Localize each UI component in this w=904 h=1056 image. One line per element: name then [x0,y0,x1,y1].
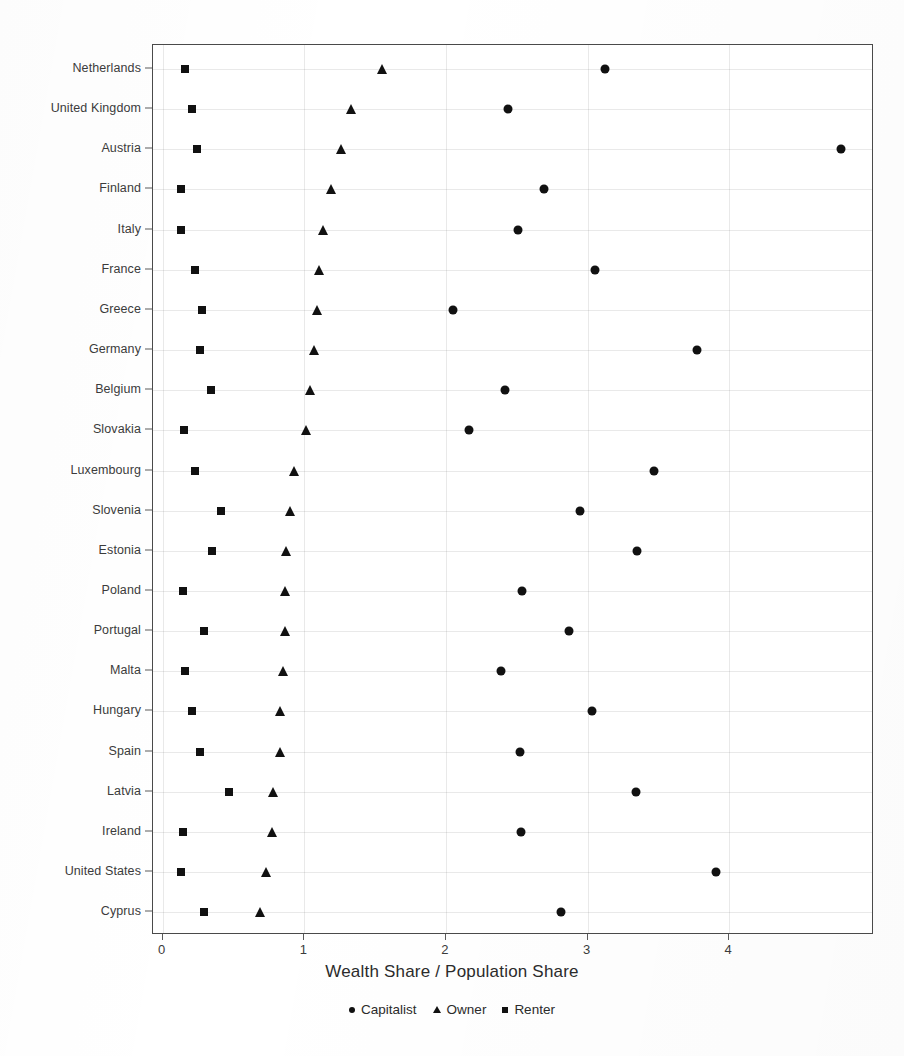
marker-capitalist [650,466,659,475]
marker-capitalist [518,586,527,595]
marker-owner [281,546,291,556]
y-tick-label: United States [65,864,141,878]
y-tick-label: Austria [101,141,141,155]
capitalist-marker-icon [349,1007,355,1013]
y-tick-label: Cyprus [101,904,141,918]
y-tick-label: Ireland [102,824,141,838]
marker-capitalist [514,225,523,234]
marker-capitalist [464,426,473,435]
marker-renter [188,707,196,715]
marker-capitalist [501,386,510,395]
marker-renter [225,788,233,796]
gridline-horizontal [153,350,872,351]
gridline-horizontal [153,551,872,552]
marker-capitalist [712,868,721,877]
gridline-horizontal [153,390,872,391]
marker-owner [289,466,299,476]
gridline-horizontal [153,230,872,231]
marker-capitalist [515,747,524,756]
y-tick-label: Slovakia [93,422,141,436]
marker-capitalist [556,908,565,917]
gridline-vertical [446,45,447,933]
y-tick-label: Portugal [94,623,141,637]
plot-area [152,44,873,934]
gridline-horizontal [153,752,872,753]
y-tick-mark [145,750,152,751]
marker-owner [280,626,290,636]
marker-owner [280,586,290,596]
gridline-horizontal [153,832,872,833]
marker-capitalist [587,707,596,716]
y-tick-mark [145,549,152,550]
y-tick-mark [145,790,152,791]
marker-capitalist [633,546,642,555]
marker-owner [318,225,328,235]
legend-label: Capitalist [361,1002,417,1017]
marker-owner [305,385,315,395]
x-tick-mark [728,934,729,940]
marker-renter [177,868,185,876]
marker-capitalist [600,65,609,74]
marker-renter [196,346,204,354]
x-tick-mark [303,934,304,940]
y-tick-mark [145,589,152,590]
y-tick-mark [145,509,152,510]
marker-renter [188,105,196,113]
y-tick-mark [145,68,152,69]
y-tick-mark [145,670,152,671]
owner-marker-icon [433,1006,441,1013]
legend-label: Renter [514,1002,555,1017]
y-tick-mark [145,871,152,872]
gridline-vertical [304,45,305,933]
marker-renter [181,667,189,675]
marker-capitalist [516,827,525,836]
x-tick-mark [162,934,163,940]
gridline-horizontal [153,631,872,632]
marker-renter [193,145,201,153]
y-tick-mark [145,349,152,350]
y-tick-mark [145,710,152,711]
marker-owner [285,506,295,516]
y-tick-label: Latvia [107,784,141,798]
x-tick-label: 4 [724,942,731,957]
marker-renter [208,547,216,555]
y-tick-label: Slovenia [92,503,141,517]
marker-capitalist [576,506,585,515]
marker-owner [377,64,387,74]
y-tick-mark [145,108,152,109]
x-tick-mark [587,934,588,940]
gridline-horizontal [153,471,872,472]
marker-renter [179,828,187,836]
marker-renter [177,226,185,234]
marker-owner [312,305,322,315]
y-tick-label: Luxembourg [71,463,142,477]
marker-owner [346,104,356,114]
figure-scatter-wealth-share: NetherlandsUnited KingdomAustriaFinlandI… [0,0,904,1056]
y-tick-mark [145,308,152,309]
x-tick-mark [445,934,446,940]
marker-owner [314,265,324,275]
gridline-horizontal [153,671,872,672]
y-tick-label: United Kingdom [51,101,141,115]
y-tick-label: Spain [109,744,141,758]
y-tick-label: Hungary [93,703,141,717]
y-tick-mark [145,148,152,149]
marker-capitalist [565,627,574,636]
marker-renter [207,386,215,394]
marker-owner [275,706,285,716]
marker-owner [261,867,271,877]
gridline-horizontal [153,591,872,592]
marker-owner [301,425,311,435]
marker-renter [200,908,208,916]
y-tick-mark [145,630,152,631]
y-tick-label: Netherlands [72,61,141,75]
marker-owner [326,184,336,194]
marker-owner [268,787,278,797]
y-tick-label: Germany [89,342,141,356]
gridline-horizontal [153,189,872,190]
marker-renter [177,185,185,193]
y-tick-mark [145,830,152,831]
gridline-horizontal [153,511,872,512]
gridline-horizontal [153,430,872,431]
x-tick-label: 0 [158,942,165,957]
